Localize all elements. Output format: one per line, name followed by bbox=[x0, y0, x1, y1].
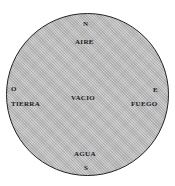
fuego-label: FUEGO bbox=[131, 100, 157, 108]
aire-label: AIRE bbox=[75, 38, 94, 46]
agua-label: AGUA bbox=[74, 150, 96, 158]
west-label: O bbox=[11, 85, 17, 93]
vacio-label: VACIO bbox=[71, 94, 95, 102]
east-label: E bbox=[153, 86, 158, 94]
north-label: N bbox=[83, 20, 88, 28]
south-label: S bbox=[84, 164, 88, 172]
tierra-label: TIERRA bbox=[11, 100, 40, 108]
